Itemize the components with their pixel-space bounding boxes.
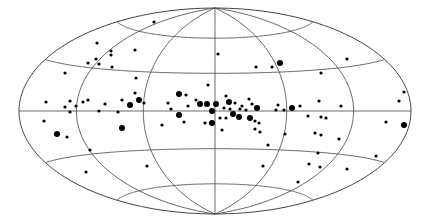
source-dot-large — [213, 101, 219, 107]
source-dot-small — [402, 90, 405, 93]
source-dot-small — [247, 97, 250, 100]
source-dot-small — [345, 57, 348, 60]
source-dot-small — [224, 94, 227, 97]
source-dot-small — [103, 102, 106, 105]
source-dot-small — [283, 132, 286, 135]
source-dot-small — [258, 130, 261, 133]
source-dot-small — [206, 83, 209, 86]
source-dot-small — [133, 48, 136, 51]
source-dot-small — [240, 104, 243, 107]
source-dot-small — [316, 151, 319, 154]
source-dot-large — [54, 131, 60, 137]
source-dot-small — [109, 49, 112, 52]
source-dot-small — [233, 101, 236, 104]
source-dot-large — [247, 115, 253, 121]
source-dot-small — [228, 107, 231, 110]
source-dot-small — [97, 62, 100, 65]
source-dot-small — [63, 105, 66, 108]
source-dot-small — [84, 170, 87, 173]
source-dot-small — [282, 108, 285, 111]
source-dot-small — [68, 99, 71, 102]
source-dot-small — [253, 119, 256, 122]
source-dot-small — [324, 116, 327, 119]
source-dot-small — [44, 100, 47, 103]
source-dot-small — [224, 116, 227, 119]
source-dot-large — [204, 101, 210, 107]
source-dot-small — [81, 100, 84, 103]
source-dot-small — [186, 104, 189, 107]
source-dot-large — [197, 101, 203, 107]
source-dot-large — [209, 120, 215, 126]
source-dot-small — [276, 103, 279, 106]
source-dot-small — [152, 20, 155, 23]
source-dot-large — [176, 112, 182, 118]
source-dot-small — [339, 104, 342, 107]
source-dot-small — [95, 41, 98, 44]
source-dot-large — [127, 102, 133, 108]
data-points — [42, 20, 407, 183]
source-dot-small — [216, 52, 219, 55]
source-dot-small — [274, 108, 277, 111]
source-dot-large — [230, 111, 236, 117]
source-dot-small — [68, 110, 71, 113]
source-dot-small — [261, 164, 264, 167]
source-dot-small — [63, 71, 66, 74]
source-dot-large — [176, 91, 182, 97]
source-dot-small — [298, 104, 301, 107]
source-dot-small — [134, 76, 137, 79]
source-dot-small — [74, 104, 77, 107]
source-dot-small — [218, 116, 221, 119]
source-dot-large — [236, 114, 242, 120]
source-dot-small — [94, 57, 97, 60]
all-sky-map — [0, 0, 428, 223]
source-dot-small — [307, 162, 310, 165]
source-dot-large — [277, 60, 283, 66]
source-dot-small — [254, 65, 257, 68]
source-dot-small — [374, 154, 377, 157]
source-dot-small — [42, 119, 45, 122]
source-dot-small — [397, 99, 400, 102]
source-dot-small — [116, 110, 119, 113]
source-dot-small — [313, 131, 316, 134]
source-dot-small — [160, 123, 163, 126]
source-dot-small — [253, 127, 256, 130]
source-dot-small — [345, 167, 348, 170]
source-dot-small — [318, 165, 321, 168]
source-dot-small — [133, 91, 136, 94]
source-dot-small — [319, 71, 322, 74]
source-dot-small — [169, 107, 172, 110]
source-dot-small — [194, 98, 197, 101]
source-dot-small — [257, 121, 260, 124]
source-dot-small — [244, 108, 247, 111]
source-dot-large — [209, 108, 215, 114]
source-dot-small — [184, 93, 187, 96]
source-dot-small — [266, 143, 269, 146]
source-dot-small — [296, 180, 299, 183]
source-dot-small — [222, 106, 225, 109]
source-dot-small — [270, 65, 273, 68]
source-dot-large — [119, 125, 125, 131]
source-dot-small — [250, 102, 253, 105]
source-dot-small — [110, 65, 113, 68]
source-dot-large — [401, 122, 407, 128]
source-dot-large — [226, 99, 232, 105]
source-dot-small — [109, 53, 112, 56]
source-dot-small — [88, 148, 91, 151]
source-dot-small — [86, 61, 89, 64]
source-dot-small — [384, 120, 387, 123]
source-dot-small — [166, 101, 169, 104]
source-dot-small — [238, 107, 241, 110]
source-dot-small — [142, 101, 145, 104]
source-dot-large — [289, 105, 295, 111]
source-dot-small — [337, 137, 340, 140]
source-dot-small — [182, 120, 185, 123]
source-dot-small — [203, 121, 206, 124]
source-dot-small — [306, 114, 309, 117]
source-dot-large — [254, 105, 260, 111]
source-dot-small — [319, 115, 322, 118]
source-dot-small — [86, 98, 89, 101]
source-dot-small — [97, 109, 100, 112]
source-dot-small — [65, 135, 68, 138]
source-dot-small — [220, 128, 223, 131]
source-dot-small — [145, 164, 148, 167]
